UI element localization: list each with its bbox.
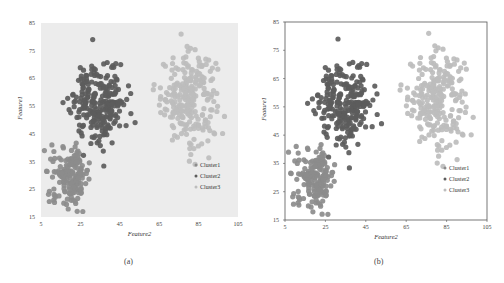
y-tick-label: 45	[29, 131, 35, 137]
legend-marker-cluster2	[444, 178, 447, 181]
scatter-chart-a: 1525354555657585525456585105Feature2Feat…	[0, 0, 252, 283]
y-tick-label: 15	[273, 217, 279, 223]
y-tick-label: 45	[273, 132, 279, 138]
x-tick-label: 25	[322, 224, 328, 230]
caption-b: (b)	[374, 257, 383, 266]
legend-marker-cluster2	[195, 175, 198, 178]
legend-label-cluster1: Cluster1	[200, 162, 220, 168]
y-tick-label: 75	[273, 47, 279, 53]
legend-marker-cluster3	[195, 186, 198, 189]
x-axis-label: Feature2	[127, 230, 152, 237]
x-tick-label: 5	[284, 224, 287, 230]
x-axis-label: Feature2	[373, 233, 398, 240]
legend-label-cluster1: Cluster1	[449, 165, 469, 171]
legend-label-cluster2: Cluster2	[200, 173, 220, 179]
x-tick-label: 45	[363, 224, 369, 230]
legend-marker-cluster1	[444, 167, 447, 170]
scatter-chart-b: 1525354555657585525456585105Feature2Feat…	[252, 0, 504, 283]
y-axis-label: Feature1	[260, 97, 267, 122]
y-tick-label: 85	[29, 20, 35, 26]
y-tick-label: 85	[273, 19, 279, 25]
caption-a: (a)	[124, 257, 133, 266]
y-tick-label: 15	[29, 214, 35, 220]
legend-label-cluster3: Cluster3	[449, 187, 469, 193]
y-tick-label: 65	[273, 76, 279, 82]
y-tick-label: 55	[273, 104, 279, 110]
x-tick-label: 85	[444, 224, 450, 230]
y-tick-label: 25	[273, 189, 279, 195]
legend-marker-cluster1	[195, 164, 198, 167]
y-tick-label: 35	[29, 159, 35, 165]
x-tick-label: 65	[156, 221, 162, 227]
scatter-plot-b: 1525354555657585525456585105Feature2Feat…	[252, 0, 504, 283]
legend-label-cluster3: Cluster3	[200, 184, 220, 190]
legend-marker-cluster3	[444, 189, 447, 192]
x-tick-label: 105	[234, 221, 243, 227]
y-tick-label: 75	[29, 48, 35, 54]
x-tick-label: 105	[483, 224, 492, 230]
y-tick-label: 55	[29, 103, 35, 109]
x-tick-label: 5	[40, 221, 43, 227]
x-tick-label: 85	[196, 221, 202, 227]
x-tick-label: 45	[117, 221, 123, 227]
y-axis-label: Feature1	[16, 96, 23, 121]
legend-label-cluster2: Cluster2	[449, 176, 469, 182]
y-tick-label: 65	[29, 75, 35, 81]
scatter-plot-a: 1525354555657585525456585105Feature2Feat…	[0, 0, 252, 283]
x-tick-label: 25	[77, 221, 83, 227]
y-tick-label: 25	[29, 186, 35, 192]
x-tick-label: 65	[403, 224, 409, 230]
y-tick-label: 35	[273, 160, 279, 166]
